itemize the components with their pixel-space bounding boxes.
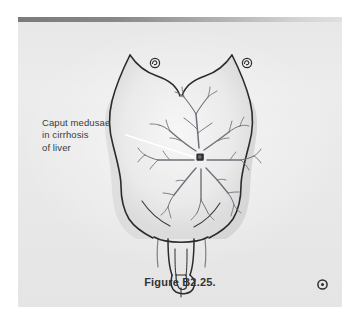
annotation-line-1: Caput medusae xyxy=(42,117,142,129)
nipple-icon xyxy=(150,58,159,67)
figure-page: Caput medusae in cirrhosis of liver Figu… xyxy=(0,0,356,324)
figure-caption: Figure B2.25. xyxy=(18,276,342,288)
anatomical-illustration xyxy=(18,17,342,307)
circle-dot-icon[interactable] xyxy=(317,279,328,290)
annotation-label: Caput medusae in cirrhosis of liver xyxy=(42,117,142,154)
umbilicus-marker xyxy=(196,153,203,160)
annotation-line-3: of liver xyxy=(42,142,142,154)
penis-scrotum-outline xyxy=(157,239,206,297)
nipple-icon xyxy=(242,58,251,67)
scanned-page-canvas: Caput medusae in cirrhosis of liver Figu… xyxy=(18,17,342,307)
annotation-line-2: in cirrhosis xyxy=(42,129,142,141)
